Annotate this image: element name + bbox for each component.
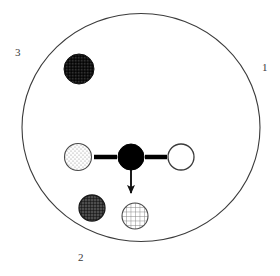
node-center-black [118, 144, 144, 170]
node-lower-mid-grid [122, 203, 148, 229]
node-top-dark [64, 54, 94, 84]
sector-label-1: 1 [262, 62, 268, 73]
node-lower-left-crosshatch [79, 195, 105, 221]
node-right-white [168, 144, 194, 170]
diagram-svg [0, 0, 280, 276]
node-left-stippled [65, 144, 92, 171]
figure-canvas: 1 2 3 [0, 0, 280, 276]
sector-label-2: 2 [78, 252, 84, 263]
sector-label-3: 3 [15, 47, 21, 58]
